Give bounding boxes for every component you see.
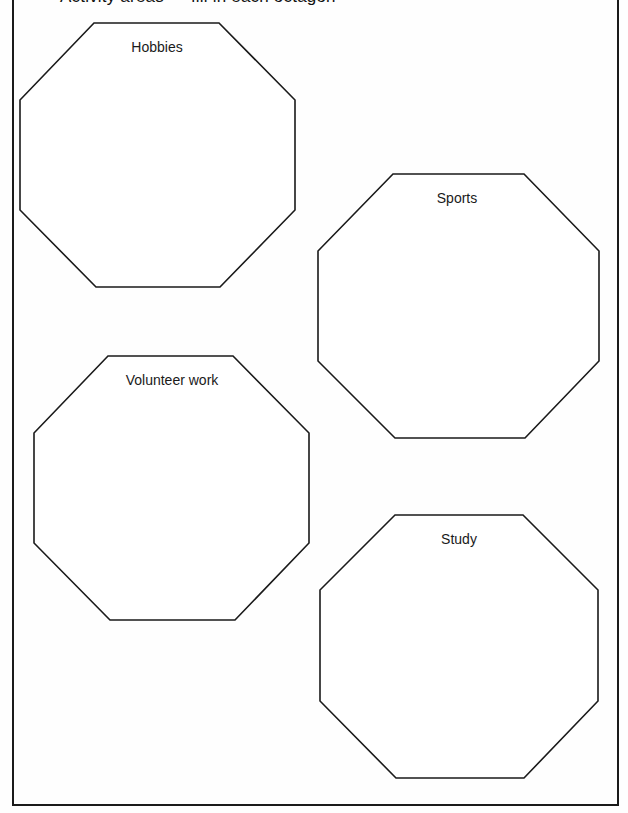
label-hobbies: Hobbies bbox=[131, 39, 182, 55]
worksheet-page: Activity areas — fill in each octagon Ho… bbox=[0, 0, 628, 813]
octagon-volunteer-work[interactable] bbox=[34, 356, 309, 620]
octagon-study[interactable] bbox=[320, 515, 598, 778]
octagon-hobbies[interactable] bbox=[20, 23, 295, 287]
label-volunteer-work: Volunteer work bbox=[126, 372, 219, 388]
octagon-canvas bbox=[0, 0, 628, 813]
octagon-sports[interactable] bbox=[318, 174, 599, 438]
label-study: Study bbox=[441, 531, 477, 547]
label-sports: Sports bbox=[437, 190, 477, 206]
